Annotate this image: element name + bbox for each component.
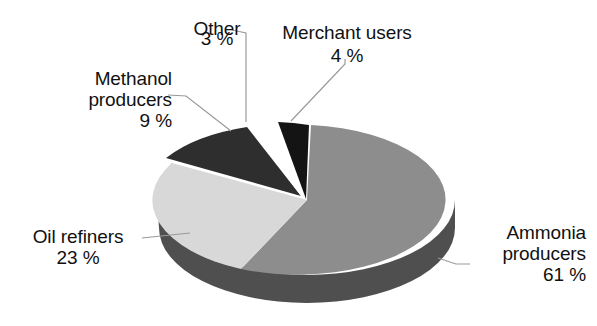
slice-label-oil-refiners: Oil refiners 23 %: [8, 226, 148, 268]
leader-line-methanol: [168, 95, 231, 131]
slice-label-merchant-users-name: Merchant users: [268, 22, 426, 43]
slice-label-methanol-line1: Methanol: [50, 68, 172, 89]
slice-label-ammonia-percent: 61 %: [460, 264, 586, 285]
slice-label-oil-line1: Oil refiners: [8, 226, 148, 247]
slice-label-methanol-producers: Methanol producers 9 %: [50, 68, 172, 131]
slice-label-methanol-percent: 9 %: [50, 110, 172, 131]
slice-label-methanol-line2: producers: [50, 89, 172, 110]
slice-label-oil-percent: 23 %: [8, 247, 148, 268]
slice-label-merchant-users: Merchant users 4 %: [268, 22, 426, 66]
slice-label-merchant-users-percent: 4 %: [268, 45, 426, 66]
slice-label-ammonia-line1: Ammonia: [460, 222, 586, 243]
slice-label-ammonia-line2: producers: [460, 243, 586, 264]
slice-label-other: Other 3 %: [174, 18, 260, 49]
pie-chart-figure: Other 3 % Merchant users 4 % Methanol pr…: [0, 0, 597, 326]
leader-line-merchant: [291, 59, 345, 121]
slice-label-ammonia-producers: Ammonia producers 61 %: [460, 222, 586, 285]
pie-top-faces: [152, 122, 445, 275]
slice-label-other-percent: 3 %: [174, 28, 260, 49]
